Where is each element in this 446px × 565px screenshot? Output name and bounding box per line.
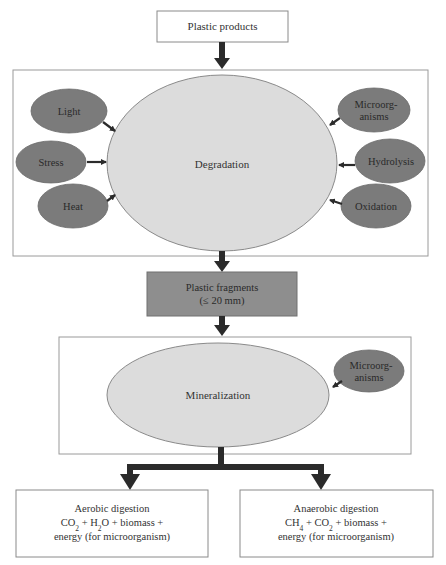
plastic-fragments-node: Plastic fragments (≤ 20 mm) [147,272,297,316]
arrow-products-to-degradation [214,42,230,69]
factor-hydrolysis-label: Hydrolysis [368,156,414,167]
factor-heat-label: Heat [63,201,83,212]
aerobic-node: Aerobic digestion CO2 + H2O + biomass + … [16,490,208,557]
aerobic-title: Aerobic digestion [75,503,151,514]
formula-text: + biomass + [333,517,387,528]
mineralization-microorganisms-ellipse [334,350,404,392]
mineralization-node: Mineralization [107,343,329,447]
plastic-fragments-box [147,272,297,316]
flow-diagram: Plastic products Degradation Light Stres… [0,0,446,565]
plastic-products-node: Plastic products [157,11,288,42]
formula-text: CH [285,517,300,528]
formula-text: + H [79,517,98,528]
plastic-fragments-label-line2: (≤ 20 mm) [200,295,245,307]
formula-text: CO [61,517,76,528]
mineralization-microorganisms-label-line1: Microorg- [350,360,393,371]
arrow-fragments-to-mineralization [214,316,230,336]
arrow-head-anaerobic [311,474,331,490]
plastic-fragments-label-line1: Plastic fragments [186,282,259,293]
factor-microorganisms-label-line2: anisms [359,111,388,122]
factor-microorganisms-label-line1: Microorg- [355,99,398,110]
aerobic-energy: energy (for microorganism) [54,531,171,543]
mineralization-microorganisms: Microorg- anisms [333,350,404,392]
mineralization-label: Mineralization [186,389,251,401]
arrow-head-aerobic [120,474,140,490]
anaerobic-energy: energy (for microorganism) [278,531,395,543]
anaerobic-node: Anaerobic digestion CH4 + CO2 + biomass … [240,490,433,557]
plastic-products-label: Plastic products [188,20,258,32]
mineralization-microorganisms-label-line2: anisms [354,372,383,383]
anaerobic-title: Anaerobic digestion [294,503,380,514]
factor-light-label: Light [58,106,81,117]
factor-stress-label: Stress [38,157,63,168]
factor-oxidation-label: Oxidation [355,201,398,212]
formula-text: O + biomass + [102,517,164,528]
factor-microorganisms-ellipse [338,88,410,132]
degradation-node: Degradation [107,75,337,251]
formula-text: + CO [303,517,329,528]
degradation-label: Degradation [195,158,250,170]
